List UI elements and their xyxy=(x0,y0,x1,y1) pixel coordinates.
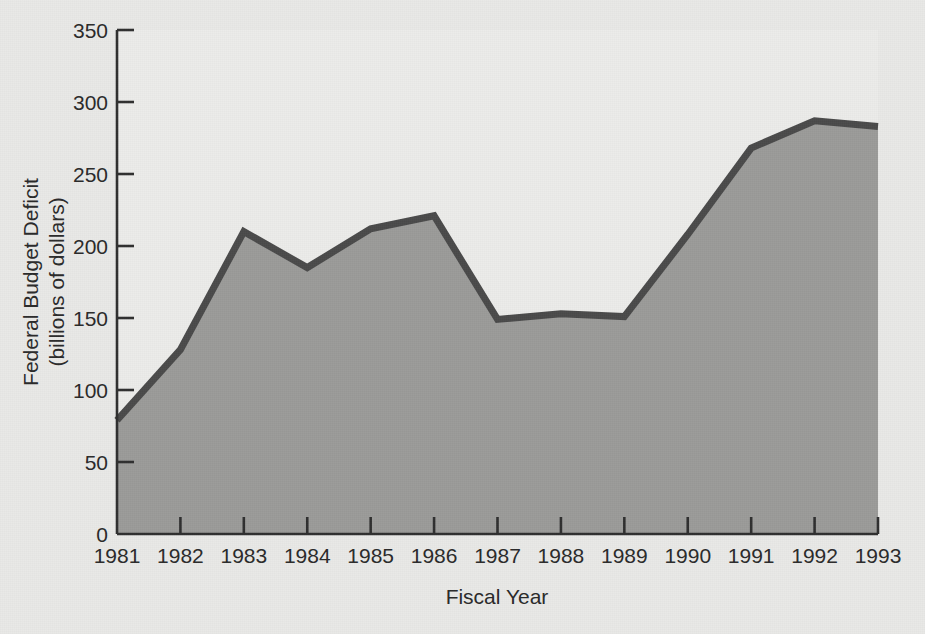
x-tick-label-1984: 1984 xyxy=(284,544,331,567)
federal-budget-deficit-area-chart: 050100150200250300350 198119821983198419… xyxy=(0,0,925,634)
x-tick-label-1992: 1992 xyxy=(791,544,838,567)
x-tick-label-1987: 1987 xyxy=(474,544,521,567)
x-tick-label-1989: 1989 xyxy=(601,544,648,567)
x-tick-label-1982: 1982 xyxy=(157,544,204,567)
y-tick-label-350: 350 xyxy=(73,19,108,42)
y-tick-label-300: 300 xyxy=(73,91,108,114)
y-axis-title-line-1: Federal Budget Deficit xyxy=(19,178,42,386)
y-tick-label-0: 0 xyxy=(96,523,108,546)
y-tick-label-150: 150 xyxy=(73,307,108,330)
figure-root: 050100150200250300350 198119821983198419… xyxy=(0,0,925,634)
x-axis-tick-labels: 1981198219831984198519861987198819891990… xyxy=(94,544,902,567)
x-tick-label-1990: 1990 xyxy=(664,544,711,567)
y-tick-label-200: 200 xyxy=(73,235,108,258)
y-axis-title-line-2: (billions of dollars) xyxy=(45,197,68,366)
y-tick-label-250: 250 xyxy=(73,163,108,186)
x-tick-label-1986: 1986 xyxy=(411,544,458,567)
y-tick-label-100: 100 xyxy=(73,379,108,402)
x-axis-title: Fiscal Year xyxy=(446,585,549,608)
x-tick-label-1991: 1991 xyxy=(728,544,775,567)
x-tick-label-1985: 1985 xyxy=(347,544,394,567)
x-tick-label-1993: 1993 xyxy=(855,544,902,567)
x-tick-label-1983: 1983 xyxy=(220,544,267,567)
y-tick-label-50: 50 xyxy=(85,451,108,474)
y-axis-tick-labels: 050100150200250300350 xyxy=(73,19,108,546)
x-tick-label-1981: 1981 xyxy=(94,544,141,567)
x-tick-label-1988: 1988 xyxy=(538,544,585,567)
